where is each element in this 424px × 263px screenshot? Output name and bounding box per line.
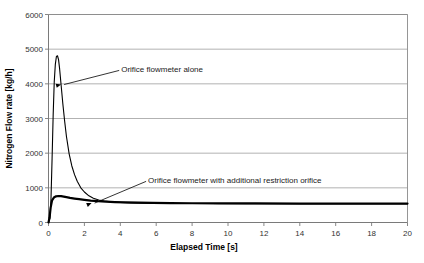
orifice-alone-label: Orifice flowmeter alone (121, 65, 203, 74)
x-tick-label-16: 16 (331, 229, 340, 238)
y-tick-label-4000: 4000 (25, 80, 43, 89)
x-tick-label-10: 10 (224, 229, 233, 238)
x-tick-label-0: 0 (46, 229, 51, 238)
y-tick-label-2000: 2000 (25, 149, 43, 158)
y-tick-label-1000: 1000 (25, 184, 43, 193)
x-axis-title: Elapsed Time [s] (170, 242, 238, 252)
chart-canvas: 02468101214161820 0100020003000400050006… (0, 0, 424, 263)
orifice-with-restriction-label: Orifice flowmeter with additional restri… (148, 176, 322, 185)
x-tick-label-8: 8 (190, 229, 195, 238)
y-axis-ticks: 0100020003000400050006000 (25, 11, 48, 228)
x-tick-label-2: 2 (82, 229, 87, 238)
x-tick-label-14: 14 (295, 229, 304, 238)
x-tick-label-12: 12 (259, 229, 268, 238)
y-tick-label-6000: 6000 (25, 11, 43, 20)
x-tick-label-4: 4 (118, 229, 123, 238)
x-tick-label-20: 20 (403, 229, 412, 238)
x-tick-label-6: 6 (154, 229, 159, 238)
y-tick-label-3000: 3000 (25, 115, 43, 124)
x-axis-ticks: 02468101214161820 (46, 223, 412, 238)
y-tick-label-5000: 5000 (25, 45, 43, 54)
y-tick-label-0: 0 (39, 219, 44, 228)
x-tick-label-18: 18 (367, 229, 376, 238)
chart-figure: 02468101214161820 0100020003000400050006… (0, 0, 424, 263)
y-axis-title: Nitrogen Flow rate [kg/h] (4, 68, 14, 168)
